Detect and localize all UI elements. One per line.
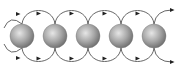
arrow-right-icon bbox=[37, 12, 42, 16]
arrow-right-icon bbox=[170, 8, 175, 12]
arrow-right-icon bbox=[136, 57, 141, 61]
sphere-3 bbox=[76, 24, 100, 48]
sphere-5 bbox=[142, 24, 166, 48]
arrow-right-icon bbox=[136, 12, 141, 16]
spheres-group bbox=[10, 24, 166, 48]
exit-arc-bottom bbox=[154, 48, 172, 62]
sphere-4 bbox=[109, 24, 133, 48]
sphere-1 bbox=[10, 24, 34, 48]
arrow-right-icon bbox=[70, 12, 75, 16]
arrow-right-icon bbox=[170, 60, 175, 64]
arrow-right-icon bbox=[37, 57, 42, 61]
arrow-right-icon bbox=[103, 57, 108, 61]
arrow-right-icon bbox=[16, 56, 21, 60]
sphere-chain-diagram bbox=[0, 0, 176, 66]
diagram-canvas bbox=[0, 0, 176, 66]
exit-arc-top bbox=[154, 10, 172, 24]
arrow-right-icon bbox=[103, 12, 108, 16]
arrow-right-icon bbox=[70, 57, 75, 61]
sphere-2 bbox=[43, 24, 67, 48]
arrow-right-icon bbox=[16, 12, 21, 16]
